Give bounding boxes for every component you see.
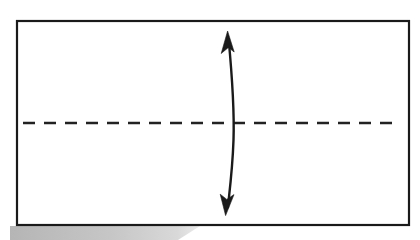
diagram-svg	[0, 0, 420, 240]
page-background	[0, 0, 420, 240]
scan-shadow	[10, 226, 200, 240]
figure-canvas	[0, 0, 420, 240]
